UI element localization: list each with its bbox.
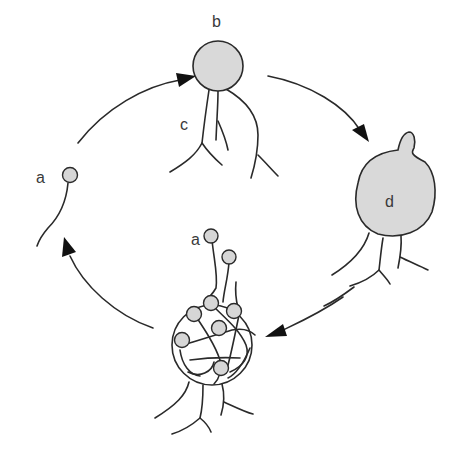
arrow-b-to-d (268, 76, 369, 142)
label-a-left: a (36, 169, 45, 186)
root-2 (350, 238, 383, 286)
root-3 (398, 236, 401, 268)
root-1 (155, 382, 189, 418)
arrow-d-to-sac (265, 287, 354, 337)
cell-d (332, 132, 435, 286)
root-2-branch (200, 418, 211, 432)
root-2 (172, 385, 203, 434)
filament-left-branch (202, 143, 222, 165)
label-c: c (180, 116, 188, 133)
stalk-2 (223, 262, 229, 302)
life-cycle-diagram: b c a d a (0, 0, 461, 464)
label-a-bottom: a (191, 231, 200, 248)
cell-b (170, 41, 278, 178)
root-1 (332, 233, 369, 275)
filament-right (226, 89, 258, 178)
filament-right-branch (258, 155, 278, 176)
sac (155, 229, 255, 434)
filament-mid (216, 91, 218, 140)
root-2-branch (379, 270, 390, 284)
label-d: d (385, 193, 394, 210)
root-3-branch (400, 257, 428, 270)
arrow-sac-to-a (62, 237, 153, 328)
label-b: b (212, 13, 221, 30)
filament-mid-branch (218, 121, 228, 150)
root-3-branch (224, 402, 253, 414)
stalk-1 (206, 240, 217, 302)
root-3 (221, 384, 224, 415)
arrow-a-to-b (78, 73, 196, 143)
filament-left (170, 90, 209, 172)
